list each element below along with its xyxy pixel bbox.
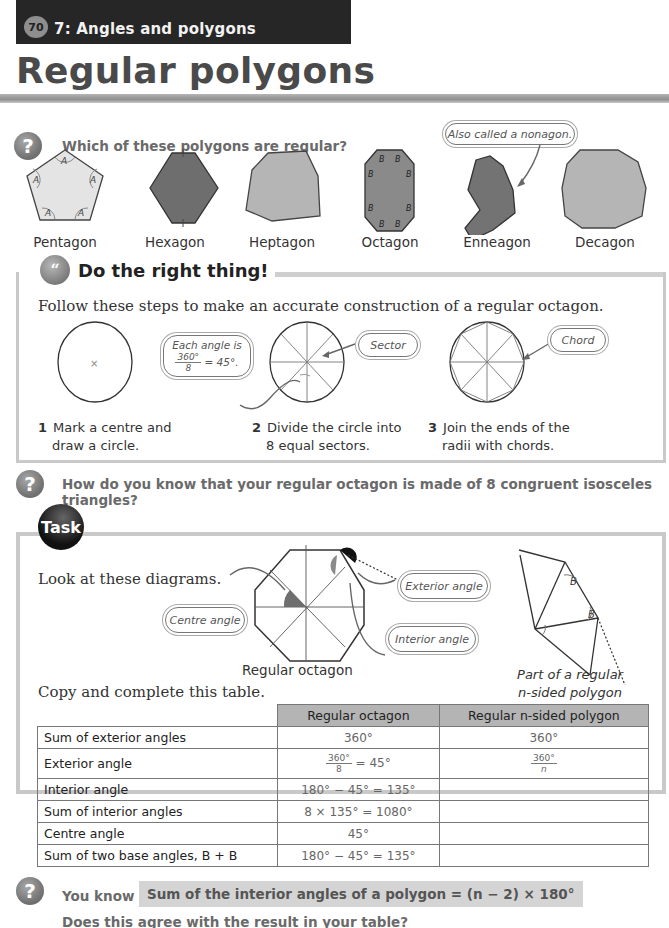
octagon-value: 360°8 = 45°	[278, 749, 440, 779]
fraction: 360°8	[326, 753, 352, 774]
octagon-value: 180° − 45° = 135°	[278, 779, 440, 801]
table-row: Sum of exterior angles 360° 360°	[38, 727, 649, 749]
each-angle-callout: Each angle is 360°8 = 45°.	[163, 335, 251, 377]
step-text: Divide the circle into	[267, 420, 401, 435]
polygon-label-enneagon: Enneagon	[452, 234, 542, 250]
table-header-octagon: Regular octagon	[278, 705, 440, 727]
svg-text:B: B	[379, 220, 385, 229]
octagon-shape: BB BB BB BB	[365, 150, 414, 231]
octagon-value: 180° − 45° = 135°	[278, 845, 440, 867]
fraction: 360°8	[175, 352, 201, 373]
polygon-label-heptagon: Heptagon	[237, 234, 327, 250]
fraction-denominator: n	[541, 764, 547, 774]
centre-angle-callout: Centre angle	[165, 607, 245, 633]
construction-intro: Follow these steps to make an accurate c…	[38, 297, 604, 315]
table-row: Exterior angle 360°8 = 45° 360°n	[38, 749, 649, 779]
table-intro: Copy and complete this table.	[38, 683, 265, 701]
n-sided-value: 360°	[439, 727, 648, 749]
table-row: Interior angle 180° − 45° = 135°	[38, 779, 649, 801]
callout-result: = 45°.	[204, 356, 238, 368]
fraction-numerator: 360°	[175, 352, 201, 363]
do-right-thing-title: Do the right thing!	[78, 260, 275, 281]
svg-text:B: B	[406, 170, 412, 179]
step-number: 1	[38, 420, 47, 435]
polygon-caption: Part of a regular n-sided polygon	[510, 666, 630, 702]
callout-formula: 360°8 = 45°.	[175, 352, 238, 373]
table-row: Sum of two base angles, B + B 180° − 45°…	[38, 845, 649, 867]
fraction-denominator: 8	[336, 764, 342, 774]
step-text: Mark a centre and	[53, 420, 171, 435]
callout-text: Each angle is	[172, 339, 242, 352]
n-sided-value: 360°n	[439, 749, 648, 779]
svg-text:A: A	[77, 208, 84, 218]
question-3-text: Does this agree with the result in your …	[62, 914, 408, 928]
fraction-numerator: 360°	[531, 753, 557, 764]
octagon-value: 45°	[278, 823, 440, 845]
pentagon-shape: A A A A A	[27, 150, 103, 220]
sector-callout: Sector	[358, 333, 418, 357]
svg-text:B: B	[395, 220, 401, 229]
question-2-text: How do you know that your regular octago…	[62, 476, 669, 508]
row-label: Sum of interior angles	[38, 801, 278, 823]
step-text: draw a circle.	[38, 437, 171, 455]
table-header-row: Regular octagon Regular n-sided polygon	[38, 705, 649, 727]
step-number: 2	[252, 420, 261, 435]
svg-text:A: A	[32, 175, 39, 185]
fraction: 360°n	[531, 753, 557, 774]
table-header-n-sided: Regular n-sided polygon	[439, 705, 648, 727]
polygon-label-hexagon: Hexagon	[130, 234, 220, 250]
table-row: Centre angle 45°	[38, 823, 649, 845]
chapter-bar: 70 7: Angles and polygons	[16, 0, 351, 44]
row-label: Interior angle	[38, 779, 278, 801]
svg-text:B: B	[368, 170, 374, 179]
row-label: Centre angle	[38, 823, 278, 845]
step-text: radii with chords.	[428, 437, 570, 455]
caption-line: n-sided polygon	[510, 684, 630, 702]
step-text: 8 equal sectors.	[252, 437, 401, 455]
table-header-blank	[38, 705, 278, 727]
heptagon-shape	[246, 151, 320, 221]
svg-text:A: A	[60, 156, 67, 166]
page-title: Regular polygons	[16, 50, 375, 91]
svg-text:B: B	[368, 204, 374, 213]
octagon-value: 360°	[278, 727, 440, 749]
n-sided-value[interactable]	[439, 779, 648, 801]
task-badge: Task	[38, 504, 84, 550]
base-angle-label: B	[570, 576, 577, 587]
caption-line: Part of a regular	[510, 666, 630, 684]
fraction-denominator: 8	[185, 363, 191, 373]
row-label: Sum of exterior angles	[38, 727, 278, 749]
n-sided-value[interactable]	[439, 823, 648, 845]
question-icon: ?	[16, 470, 44, 498]
n-sided-value[interactable]	[439, 845, 648, 867]
n-sided-value[interactable]	[439, 801, 648, 823]
table-row: Sum of interior angles 8 × 135° = 1080°	[38, 801, 649, 823]
angles-table: Regular octagon Regular n-sided polygon …	[37, 704, 649, 867]
you-know-label: You know	[62, 888, 134, 904]
polygons-diagram: A A A A A BB BB BB BB	[0, 140, 669, 235]
polygon-label-pentagon: Pentagon	[20, 234, 110, 250]
step-2: 2Divide the circle into 8 equal sectors.	[252, 419, 401, 455]
step-number: 3	[428, 420, 437, 435]
enneagon-shape	[465, 156, 515, 235]
decagon-shape	[562, 150, 646, 228]
octagon-caption: Regular octagon	[242, 662, 353, 678]
svg-text:×: ×	[90, 358, 98, 369]
quote-icon: “	[40, 255, 70, 285]
interior-angle-formula: Sum of the interior angles of a polygon …	[139, 881, 583, 907]
chapter-title: 7: Angles and polygons	[54, 20, 256, 38]
step-1: 1Mark a centre and draw a circle.	[38, 419, 171, 455]
svg-text:B: B	[379, 155, 385, 164]
interior-angle-callout: Interior angle	[388, 626, 476, 652]
row-label: Exterior angle	[38, 749, 278, 779]
fraction-numerator: 360°	[326, 753, 352, 764]
step-3: 3Join the ends of the radii with chords.	[428, 419, 570, 455]
do-right-thing-header: “ Do the right thing!	[40, 255, 275, 285]
svg-text:A: A	[44, 208, 51, 218]
step-text: Join the ends of the	[443, 420, 570, 435]
polygon-label-octagon: Octagon	[345, 234, 435, 250]
hexagon-shape	[150, 153, 218, 223]
fraction-result: = 45°	[356, 756, 391, 770]
page-number-badge: 70	[24, 16, 48, 38]
svg-text:B: B	[395, 155, 401, 164]
